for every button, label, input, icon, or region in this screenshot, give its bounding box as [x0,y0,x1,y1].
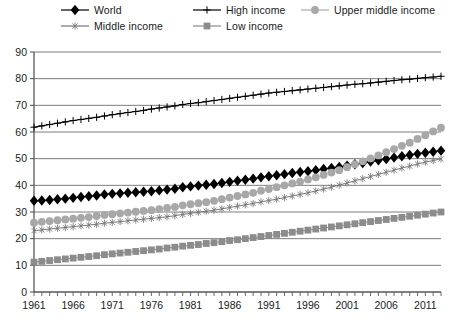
legend-item-label: Low income [226,21,283,32]
data-point [124,188,133,198]
data-point [336,222,343,229]
data-point [70,117,77,124]
data-point [304,176,312,184]
xtick-label-1991: 1991 [257,299,281,311]
data-point [203,98,210,105]
data-point [249,173,258,183]
data-point [116,110,123,117]
plus-marker [192,4,222,16]
data-point [312,226,319,233]
data-point [93,252,100,259]
data-point [61,193,70,203]
xtick-label-1976: 1976 [140,299,164,311]
data-point [30,196,39,206]
data-point [437,124,445,132]
data-point [155,205,163,213]
data-point [273,231,280,238]
legend-item-middle-income[interactable]: Middle income [60,20,163,32]
data-point [109,250,116,257]
data-point [93,114,100,121]
data-point [406,139,414,147]
data-point [218,178,227,188]
data-point [430,73,437,80]
data-point [414,212,421,219]
data-point [312,85,319,92]
data-point [258,233,265,240]
data-point [179,243,186,250]
data-point [234,192,242,200]
data-point [148,105,155,112]
data-point [124,109,131,116]
data-point [398,142,406,150]
data-point [140,107,147,114]
data-point [54,216,62,224]
data-point [390,145,398,153]
xtick-label-1971: 1971 [101,299,125,311]
data-point [132,208,140,216]
ytick-label-70: 70 [15,99,27,111]
data-point [131,187,140,197]
ytick-label-50: 50 [15,152,27,164]
data-point [218,96,225,103]
chart-plot-area: 0102030405060708090196119661971197619811… [0,0,459,323]
data-point [116,188,125,198]
data-point [210,97,217,104]
data-point [179,101,186,108]
ytick-label-40: 40 [15,179,27,191]
data-point [38,218,46,226]
data-point [171,203,179,211]
data-point [359,219,366,226]
legend-item-label: Upper middle income [334,5,435,16]
legend-item-high-income[interactable]: High income [192,4,285,16]
data-point [351,160,359,168]
xtick-label-2011: 2011 [414,299,437,311]
data-point [148,206,156,214]
data-point [93,212,101,220]
legend-item-low-income[interactable]: Low income [192,20,283,32]
series-line [34,76,441,127]
asterisk-marker [60,20,90,32]
data-point [54,256,61,263]
data-point [320,225,327,232]
legend-item-label: High income [226,5,285,16]
data-point [70,255,77,262]
data-point [45,195,54,205]
data-point [265,89,272,96]
data-point [148,246,155,253]
data-point [413,149,422,159]
data-point [100,189,109,199]
data-point [178,182,187,192]
data-point [69,193,78,203]
data-point [429,147,438,157]
data-point [429,128,437,136]
circle-marker [300,4,330,16]
data-point [328,83,335,90]
data-point [359,157,367,165]
data-point [335,166,343,174]
data-point [312,173,320,181]
data-point [226,95,233,102]
data-point [422,74,429,81]
legend-item-upper-middle-income[interactable]: Upper middle income [300,4,435,16]
data-point [171,244,178,251]
data-point [140,247,147,254]
data-point [367,79,374,86]
xtick-label-1996: 1996 [296,299,320,311]
data-point [288,180,296,188]
legend-item-world[interactable]: World [60,4,122,16]
xtick-label-2006: 2006 [375,299,399,311]
data-point [265,185,273,193]
data-point [85,253,92,260]
data-point [85,191,94,201]
data-point [414,135,422,143]
data-point [280,169,289,179]
data-point [297,228,304,235]
data-point [101,211,109,219]
data-point [46,121,53,128]
data-point [375,217,382,224]
ytick-label-30: 30 [15,206,27,218]
data-point [359,80,366,87]
data-point [234,94,241,101]
data-point [124,209,132,217]
data-point [343,81,350,88]
